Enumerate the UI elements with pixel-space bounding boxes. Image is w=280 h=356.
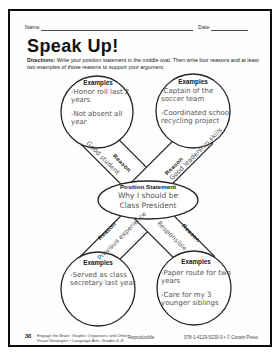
footer-isbn: 978-1-4129-5230-9 • © Corwin Press [178,335,258,340]
example-entry: -Care for my 3 younger siblings [161,291,235,307]
examples-label-top-left: Examples [68,79,128,86]
examples-label-bottom-right: Examples [166,258,226,265]
footer-reproducible: Reproducible [108,335,174,340]
example-entry: -Honor roll last 2 years [71,88,133,104]
examples-entries-top-right: -Captain of the soccer team -Coordinated… [161,87,233,131]
example-entry: -Served as class secretary last year [70,271,138,287]
position-statement-header: Position Statement [98,183,198,190]
example-entry: -Coordinated school recycling project [161,109,233,125]
example-entry: -Not absent all year [71,110,133,126]
organizer-diagram [0,0,280,356]
position-statement-text: Why I should be Class President [112,191,184,211]
page-number: 38 [25,333,31,339]
examples-entries-bottom-right: -Paper route for two years -Care for my … [161,269,235,313]
worksheet-page: { "page": { "name_label": "Name", "date_… [0,0,280,356]
examples-entries-bottom-left: -Served as class secretary last year [70,271,138,293]
examples-entries-top-left: -Honor roll last 2 years -Not absent all… [71,88,133,132]
example-entry: -Captain of the soccer team [161,87,233,103]
example-entry: -Paper route for two years [161,269,235,285]
examples-label-bottom-left: Examples [68,259,128,266]
examples-label-top-right: Examples [163,78,223,85]
